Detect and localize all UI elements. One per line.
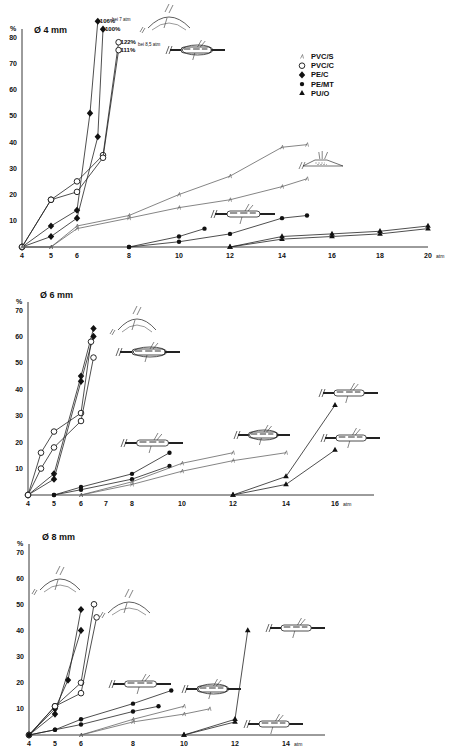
pe-mt-marker <box>228 232 232 236</box>
series-line <box>129 229 205 247</box>
y-tick-label: 30 <box>16 653 24 660</box>
x-tick-label: 4 <box>27 740 31 747</box>
pe-mt-marker <box>27 733 31 737</box>
pe-mt-marker <box>280 216 284 220</box>
pvc-c-marker <box>299 63 305 69</box>
series-line <box>29 630 81 735</box>
series-line <box>22 29 103 247</box>
x-tick-label: 20 <box>424 252 432 259</box>
pvc-c-marker <box>51 445 57 451</box>
series-line <box>22 21 98 247</box>
y-tick-label: 40 <box>16 627 24 634</box>
pe-mt-marker <box>127 245 131 249</box>
y-tick-label: 20 <box>9 191 17 198</box>
pe-mt-marker <box>79 488 83 492</box>
series-line <box>233 450 335 495</box>
x-unit-label: atm <box>343 501 351 507</box>
y-tick-label: 30 <box>9 165 17 172</box>
x-tick-label: 6 <box>79 740 83 747</box>
y-tick-label: 60 <box>9 86 17 93</box>
pe-mt-marker <box>130 472 134 476</box>
x-tick-label: 12 <box>231 740 239 747</box>
panel-title: Ø 6 mm <box>40 290 73 300</box>
pe-mt-marker <box>169 688 173 692</box>
legend-item-label: PVC/C <box>311 61 335 70</box>
balloon-sketch-curved-icon <box>100 589 150 618</box>
pe-mt-marker <box>79 717 83 721</box>
legend: PVC/SPVC/CPE/CPE/MTPU/O <box>299 52 335 98</box>
pe-mt-marker <box>167 451 171 455</box>
legend-item-label: PVC/S <box>311 52 334 61</box>
y-unit-label: % <box>16 298 23 305</box>
pe-mt-marker <box>131 709 135 713</box>
series-line <box>230 229 428 247</box>
series-line <box>81 709 210 735</box>
series-line <box>22 42 119 247</box>
pe-c-marker <box>48 222 54 229</box>
series-end-label: 122% <box>121 39 137 45</box>
x-tick-label: 14 <box>282 740 290 747</box>
balloon-sketch-oval-icon <box>166 40 225 60</box>
pvc-c-marker <box>88 339 94 345</box>
pvc-c-marker <box>94 615 100 621</box>
series-line <box>28 336 94 495</box>
x-tick-label: 6 <box>79 500 83 507</box>
pe-c-marker <box>74 215 80 222</box>
pe-mt-marker <box>52 493 56 497</box>
x-unit-label: atm <box>294 741 302 747</box>
y-tick-label: 70 <box>9 60 17 67</box>
x-tick-label: 12 <box>226 252 234 259</box>
pe-mt-marker <box>177 240 181 244</box>
series-line <box>81 453 233 495</box>
catheter-sketch-icon <box>319 383 378 403</box>
catheter-sketch-icon <box>266 618 325 638</box>
y-tick-label: 40 <box>15 386 23 393</box>
pu-o-marker <box>283 481 289 486</box>
series-line <box>29 604 94 735</box>
pvc-c-marker <box>91 601 97 607</box>
series-line <box>129 216 307 248</box>
y-tick-label: 70 <box>15 307 23 314</box>
y-tick-label: 10 <box>15 465 23 472</box>
y-tick-label: 70 <box>16 549 24 556</box>
pe-mt-marker <box>202 226 206 230</box>
pvc-c-marker <box>74 179 80 185</box>
x-tick-label: 10 <box>178 500 186 507</box>
pvc-c-marker <box>51 429 57 435</box>
panel-title: Ø 8 mm <box>42 532 75 542</box>
x-tick-label: 4 <box>26 500 30 507</box>
y-tick-label: 20 <box>15 439 23 446</box>
balloon-sketch-oval-icon <box>182 679 241 699</box>
pvc-c-marker <box>100 155 106 161</box>
y-unit-label: % <box>10 25 17 32</box>
pe-mt-marker <box>156 704 160 708</box>
series-line <box>28 358 94 495</box>
pu-o-marker <box>332 402 338 407</box>
x-tick-label: 5 <box>52 500 56 507</box>
pe-c-marker <box>299 71 305 78</box>
x-tick-label: 18 <box>376 252 384 259</box>
balloon-sketch-oval-icon <box>116 342 180 362</box>
pvc-c-marker <box>91 355 97 361</box>
pe-mt-marker <box>131 701 135 705</box>
series-end-label: 100% <box>105 26 121 32</box>
catheter-sketch-icon <box>244 714 303 734</box>
y-tick-label: 50 <box>9 112 17 119</box>
series-line <box>22 179 307 247</box>
y-tick-label: 40 <box>9 139 17 146</box>
pe-c-marker <box>78 627 84 634</box>
x-tick-label: 10 <box>175 252 183 259</box>
pu-o-marker <box>232 719 238 724</box>
x-tick-label: 8 <box>130 500 134 507</box>
pvc-c-marker <box>25 492 31 498</box>
x-tick-label: 16 <box>331 500 339 507</box>
pe-mt-marker <box>305 213 309 217</box>
pe-c-marker <box>87 110 93 117</box>
series-end-label: 111% <box>121 47 136 53</box>
y-unit-label: % <box>17 540 24 547</box>
balloon-sketch-curved-icon <box>140 4 190 33</box>
figure: PVC/SPVC/CPE/CPE/MTPU/O 1020304050607080… <box>0 0 457 755</box>
series-line <box>233 405 335 495</box>
x-tick-label: 12 <box>229 500 237 507</box>
y-tick-label: 50 <box>16 601 24 608</box>
